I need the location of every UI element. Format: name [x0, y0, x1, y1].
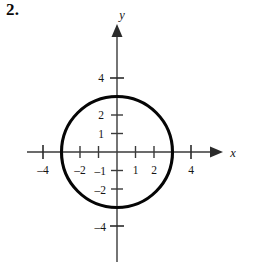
y-label-neg4: –4 — [94, 221, 107, 233]
x-label-1: 1 — [133, 164, 139, 176]
x-axis-arrow-icon — [210, 147, 223, 158]
y-label-neg1: –1 — [94, 165, 107, 177]
y-label-1: 1 — [98, 128, 104, 140]
y-label-neg2: –2 — [94, 184, 107, 196]
x-axis-label: x — [229, 146, 236, 160]
x-label-neg2: –2 — [73, 164, 86, 176]
y-label-2: 2 — [98, 109, 104, 121]
y-label-4: 4 — [98, 72, 104, 84]
x-label-4: 4 — [188, 164, 194, 176]
coordinate-plane-svg: –4 –2 1 2 4 4 2 1 –1 –2 –4 x y — [0, 0, 257, 262]
x-label-2: 2 — [151, 164, 157, 176]
graph-figure: 2. –4 –2 1 2 4 — [0, 0, 257, 262]
x-label-neg4: –4 — [36, 164, 49, 176]
y-axis-label: y — [117, 8, 125, 22]
y-axis-arrow-icon — [112, 24, 123, 37]
